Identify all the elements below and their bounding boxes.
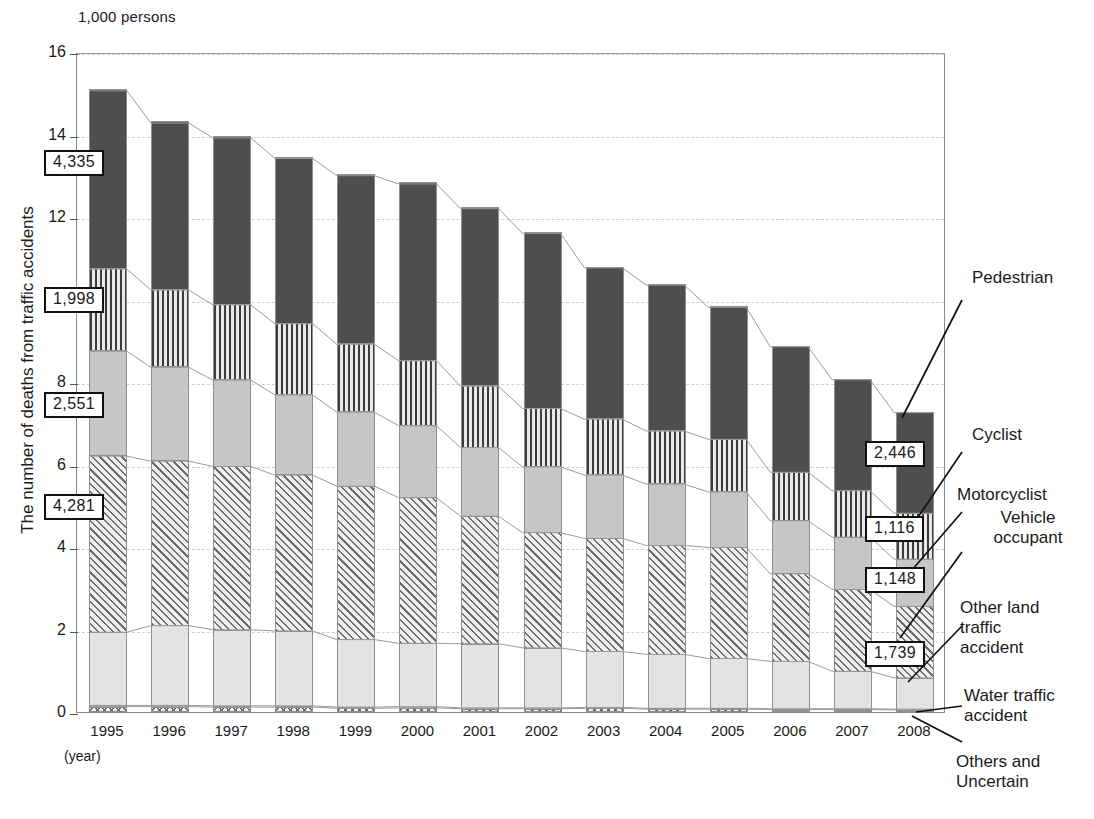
segment-others-and-uncertain <box>275 707 313 712</box>
gridline <box>77 384 944 385</box>
x-axis-tick-label: 2006 <box>760 722 820 739</box>
segment-motorcyclist <box>772 520 810 573</box>
bar-2004 <box>648 52 686 712</box>
segment-motorcyclist <box>710 491 748 547</box>
bar-2007 <box>834 52 872 712</box>
segment-pedestrian <box>151 121 189 288</box>
x-axis-tick-label: 1998 <box>263 722 323 739</box>
segment-other-land-traffic-accident <box>896 678 934 709</box>
gridline <box>77 137 944 138</box>
segment-cyclist <box>213 304 251 379</box>
segment-cyclist <box>524 408 562 467</box>
y-axis-tick-label: 8 <box>32 374 66 390</box>
series-label-cyclist: Cyclist <box>972 425 1022 445</box>
segment-others-and-uncertain <box>151 707 189 712</box>
segment-other-land-traffic-accident <box>648 654 686 708</box>
bar-2002 <box>524 52 562 712</box>
segment-others-and-uncertain <box>586 708 624 712</box>
segment-other-land-traffic-accident <box>337 639 375 707</box>
y-axis-tick-mark <box>70 219 78 220</box>
segment-pedestrian <box>275 157 313 323</box>
value-callout-motorcyclist-1995: 2,551 <box>44 392 104 418</box>
y-axis-tick-mark <box>70 137 78 138</box>
segment-other-land-traffic-accident <box>834 671 872 709</box>
bar-1998 <box>275 52 313 712</box>
value-callout-pedestrian-1995: 4,335 <box>44 150 104 176</box>
segment-cyclist <box>772 472 810 521</box>
unit-label: 1,000 persons <box>78 8 176 25</box>
y-axis-tick-mark <box>70 54 78 55</box>
segment-other-land-traffic-accident <box>772 661 810 708</box>
segment-vehicle-occupant <box>524 532 562 648</box>
segment-motorcyclist <box>586 474 624 538</box>
segment-pedestrian <box>710 306 748 438</box>
segment-pedestrian <box>461 207 499 385</box>
segment-pedestrian <box>648 284 686 430</box>
series-label-vehicle-occupant: Vehicle occupant <box>972 508 1084 548</box>
series-label-water-traffic-accident: Water traffic accident <box>964 686 1090 726</box>
segment-vehicle-occupant <box>648 545 686 654</box>
segment-pedestrian <box>337 174 375 343</box>
x-axis-tick-label: 2005 <box>698 722 758 739</box>
segment-pedestrian <box>772 346 810 472</box>
x-axis-tick-label: 2001 <box>449 722 509 739</box>
y-axis-tick-mark <box>70 467 78 468</box>
segment-others-and-uncertain <box>772 710 810 712</box>
segment-pedestrian <box>586 267 624 419</box>
segment-cyclist <box>399 360 437 425</box>
segment-others-and-uncertain <box>648 709 686 712</box>
y-axis-tick-mark <box>70 714 78 715</box>
x-axis-tick-label: 2004 <box>636 722 696 739</box>
y-axis-tick-label: 14 <box>32 127 66 143</box>
segment-pedestrian <box>213 136 251 303</box>
segment-other-land-traffic-accident <box>399 643 437 707</box>
x-axis-tick-label: 1996 <box>139 722 199 739</box>
bar-1997 <box>213 52 251 712</box>
segment-others-and-uncertain <box>399 708 437 712</box>
segment-cyclist <box>586 418 624 474</box>
segment-cyclist <box>461 385 499 446</box>
value-callout-pedestrian-2008: 2,446 <box>865 441 925 467</box>
y-axis-tick-mark <box>70 384 78 385</box>
bar-2005 <box>710 52 748 712</box>
segment-others-and-uncertain <box>710 709 748 712</box>
bar-2003 <box>586 52 624 712</box>
segment-vehicle-occupant <box>772 573 810 661</box>
segment-other-land-traffic-accident <box>213 630 251 706</box>
segment-motorcyclist <box>461 447 499 516</box>
x-axis-tick-label: 2008 <box>884 722 944 739</box>
x-axis-tick-label: 2007 <box>822 722 882 739</box>
value-callout-cyclist-2008: 1,116 <box>865 516 924 542</box>
gridline <box>77 632 944 633</box>
segment-cyclist <box>710 439 748 492</box>
series-label-motorcyclist: Motorcyclist <box>957 485 1047 505</box>
gridline <box>77 219 944 220</box>
segment-motorcyclist <box>275 394 313 474</box>
gridline <box>77 302 944 303</box>
y-axis-tick-label: 4 <box>32 539 66 555</box>
segment-other-land-traffic-accident <box>151 625 189 705</box>
traffic-deaths-stacked-bar-chart: 1,000 persons The number of deaths from … <box>0 0 1094 819</box>
y-axis-tick-label: 12 <box>32 209 66 225</box>
x-axis-tick-label: 1999 <box>325 722 385 739</box>
segment-motorcyclist <box>213 379 251 466</box>
segment-cyclist <box>151 289 189 367</box>
value-callout-cyclist-1995: 1,998 <box>44 287 104 313</box>
value-callout-vehicle-1995: 4,281 <box>44 494 104 520</box>
segment-others-and-uncertain <box>337 708 375 712</box>
y-axis-tick-mark <box>70 632 78 633</box>
y-axis-tick-mark <box>70 549 78 550</box>
segment-other-land-traffic-accident <box>461 644 499 708</box>
segment-motorcyclist <box>337 411 375 485</box>
segment-others-and-uncertain <box>89 707 127 712</box>
segment-motorcyclist <box>648 483 686 544</box>
segment-others-and-uncertain <box>896 710 934 712</box>
x-axis-tick-label: 2000 <box>387 722 447 739</box>
x-axis-tick-label: 1995 <box>77 722 137 739</box>
segment-pedestrian <box>834 379 872 490</box>
segment-cyclist <box>337 343 375 411</box>
segment-pedestrian <box>524 232 562 408</box>
segment-vehicle-occupant <box>461 516 499 644</box>
segment-pedestrian <box>399 182 437 359</box>
segment-motorcyclist <box>151 366 189 460</box>
